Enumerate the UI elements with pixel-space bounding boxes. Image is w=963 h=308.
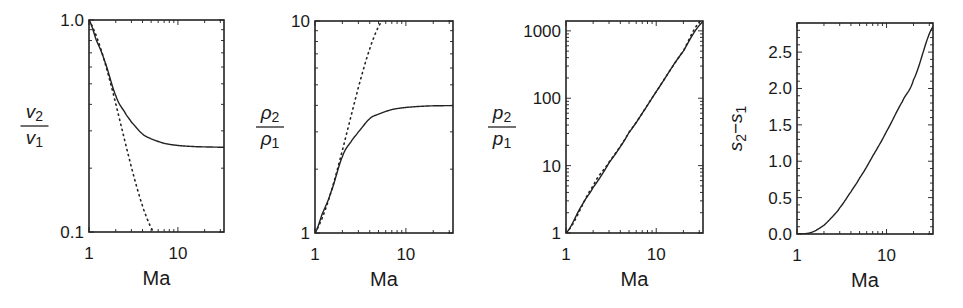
x-tick-label: 10 [647, 245, 666, 264]
solid-curve [89, 20, 224, 147]
y-axis-label: ρ2ρ1 [256, 102, 284, 151]
y-tick-label: 1 [301, 224, 310, 243]
svg-text:p2: p2 [492, 102, 512, 125]
dotted-curve [315, 21, 382, 233]
panel-pressure-ratio: 1101101001000Map2p1 [488, 21, 703, 290]
plot-frame [89, 20, 224, 232]
panel-density-ratio: 110110Maρ2ρ1 [256, 12, 453, 290]
y-axis-label: p2p1 [488, 102, 516, 151]
svg-text:v2: v2 [26, 101, 44, 124]
dotted-curve [89, 20, 153, 232]
figure: 1100.11.0Mav2v1 110110Maρ2ρ1 11011010010… [0, 0, 963, 308]
tick-marks [89, 20, 224, 232]
x-tick-label: 1 [310, 245, 319, 264]
tick-marks [797, 23, 933, 234]
svg-text:v1: v1 [26, 127, 44, 150]
y-tick-label: 100 [533, 89, 561, 108]
dotted-curve [566, 21, 701, 233]
x-axis-label: Ma [621, 268, 650, 290]
plot-frame [797, 23, 933, 234]
y-tick-label: 0.5 [768, 189, 792, 208]
plot-frame [315, 21, 453, 233]
y-tick-label: 2.5 [768, 43, 792, 62]
x-axis-label: Ma [143, 267, 172, 289]
x-axis-label: Ma [370, 268, 399, 290]
x-tick-label: 1 [84, 244, 93, 263]
y-tick-label: 1000 [523, 22, 561, 41]
y-tick-label: 1 [552, 224, 561, 243]
panel-entropy-jump: 1100.00.51.01.52.02.5Mas2−s1 [725, 23, 933, 291]
y-tick-label: 10 [542, 157, 561, 176]
x-tick-label: 10 [396, 245, 415, 264]
x-tick-label: 1 [792, 246, 801, 265]
panel-velocity-ratio: 1100.11.0Mav2v1 [21, 11, 225, 289]
y-tick-label: 1.5 [768, 116, 792, 135]
solid-curve [315, 106, 453, 233]
x-axis-label: Ma [851, 269, 880, 291]
y-tick-label: 1.0 [60, 11, 84, 30]
solid-curve [797, 27, 933, 234]
tick-marks [315, 21, 453, 233]
y-tick-label: 1.0 [768, 152, 792, 171]
y-axis-label: s2−s1 [725, 105, 749, 151]
x-tick-label: 10 [168, 244, 187, 263]
y-tick-label: 0.0 [768, 225, 792, 244]
y-tick-label: 2.0 [768, 79, 792, 98]
y-tick-label: 10 [291, 12, 310, 31]
y-axis-label: v2v1 [21, 101, 49, 150]
svg-text:ρ2: ρ2 [260, 102, 280, 125]
svg-text:p1: p1 [492, 128, 512, 151]
x-tick-label: 10 [877, 246, 896, 265]
y-tick-label: 0.1 [60, 223, 84, 242]
svg-text:ρ1: ρ1 [260, 128, 280, 151]
x-tick-label: 1 [561, 245, 570, 264]
